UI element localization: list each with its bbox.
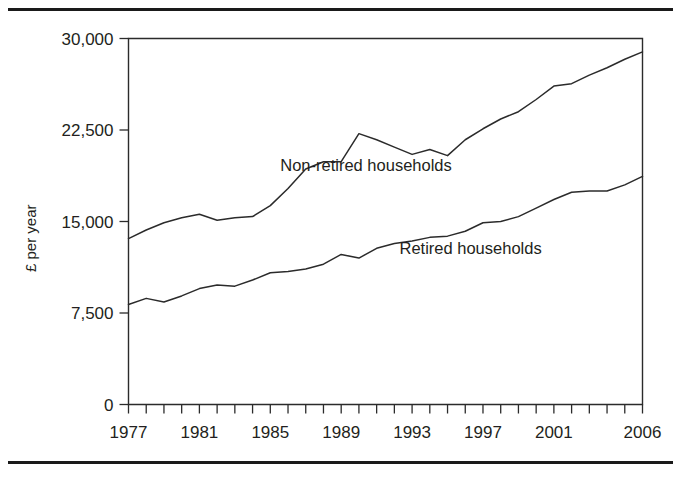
series-annotation: Non-retired households <box>280 156 452 174</box>
x-tick-label: 1977 <box>110 423 148 442</box>
x-axis-ticks <box>129 405 643 414</box>
series-annotations: Non-retired householdsRetired households <box>280 156 541 256</box>
x-tick-label: 1985 <box>251 423 289 442</box>
x-tick-label: 1989 <box>322 423 360 442</box>
y-axis-tick-labels: 07,50015,00022,50030,000 <box>62 30 114 415</box>
data-series-group <box>129 52 643 305</box>
y-tick-label: 22,500 <box>62 121 114 140</box>
x-tick-label: 1981 <box>180 423 218 442</box>
series-annotation: Retired households <box>399 239 541 257</box>
chart-svg: 07,50015,00022,50030,000 197719811985198… <box>0 0 681 478</box>
figure-container: 07,50015,00022,50030,000 197719811985198… <box>0 0 681 478</box>
x-tick-label: 1993 <box>393 423 431 442</box>
series-line-retired <box>129 176 643 304</box>
y-axis-ticks <box>120 39 129 405</box>
x-tick-label: 2001 <box>535 423 573 442</box>
y-axis-title: £ per year <box>22 204 39 272</box>
x-tick-label: 2006 <box>624 423 662 442</box>
y-tick-label: 7,500 <box>71 304 114 323</box>
y-tick-label: 0 <box>104 396 113 415</box>
y-tick-label: 15,000 <box>62 213 114 232</box>
x-axis-tick-labels: 19771981198519891993199720012006 <box>110 423 662 442</box>
y-tick-label: 30,000 <box>62 30 114 49</box>
series-line-non-retired <box>129 52 643 239</box>
x-tick-label: 1997 <box>464 423 502 442</box>
plot-frame <box>129 39 643 405</box>
line-chart: 07,50015,00022,50030,000 197719811985198… <box>0 0 681 478</box>
